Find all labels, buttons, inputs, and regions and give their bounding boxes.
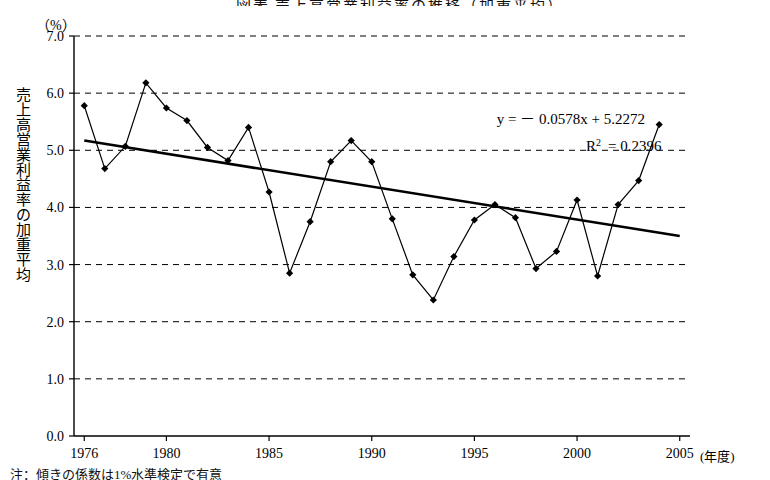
x-tick-label: 1976 xyxy=(70,446,98,461)
y-tick-label: 7.0 xyxy=(47,29,65,44)
x-tick-label: 1995 xyxy=(460,446,488,461)
y-tick-label: 6.0 xyxy=(47,86,65,101)
x-tick-label: 1985 xyxy=(255,446,283,461)
data-point-marker xyxy=(81,102,88,109)
trendline-equation: y = － 0.0578x + 5.2272 xyxy=(497,111,645,127)
data-point-marker xyxy=(307,218,314,225)
y-tick-label: 1.0 xyxy=(47,372,65,387)
y-tick-label: 0.0 xyxy=(47,429,65,444)
data-point-marker xyxy=(245,124,252,131)
data-point-marker xyxy=(656,121,663,128)
chart-container: 図表 売上高営業利益率の推移（加重平均） （%） 売上高営業利益率の加重平均 0… xyxy=(0,0,770,480)
y-tick-label: 5.0 xyxy=(47,143,65,158)
x-tick-label: 2000 xyxy=(563,446,591,461)
trendline xyxy=(84,141,679,236)
gridlines xyxy=(74,36,690,379)
y-tick-label: 3.0 xyxy=(47,258,65,273)
chart-footnote: 注：傾きの係数は1%水準検定で有意 xyxy=(10,464,222,480)
data-point-marker xyxy=(265,188,272,195)
x-axis-unit-label: (年度) xyxy=(700,446,735,465)
chart-svg: 0.01.02.03.04.05.06.07.0 197619801985199… xyxy=(0,0,770,480)
data-point-marker xyxy=(512,214,519,221)
y-tick-label: 4.0 xyxy=(47,200,65,215)
r-squared-value: = 0.2396 xyxy=(608,138,662,154)
r-squared-label: R2 xyxy=(586,137,601,155)
data-point-marker xyxy=(389,215,396,222)
y-tick-label: 2.0 xyxy=(47,315,65,330)
data-point-marker xyxy=(286,270,293,277)
data-point-marker xyxy=(450,253,457,260)
data-point-marker xyxy=(573,196,580,203)
x-tick-labels: 1976198019851990199520002005 xyxy=(70,436,693,461)
x-tick-label: 1990 xyxy=(358,446,386,461)
x-tick-label: 1980 xyxy=(152,446,180,461)
data-point-marker xyxy=(594,272,601,279)
y-tick-labels: 0.01.02.03.04.05.06.07.0 xyxy=(47,29,75,444)
x-tick-label: 2005 xyxy=(666,446,694,461)
